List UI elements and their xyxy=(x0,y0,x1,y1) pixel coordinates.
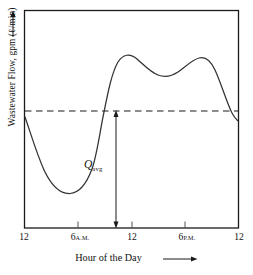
xtick-label-0-text: 12 xyxy=(19,231,29,242)
y-axis-title: Wastewater Flow, gpm (ℓ/min) xyxy=(7,0,17,167)
plot-frame xyxy=(25,11,239,229)
xtick-label-6pm: 6P.M. xyxy=(179,231,196,242)
qavg-subscript: avg xyxy=(92,165,102,172)
x-axis-title: Hour of the Day xyxy=(75,252,141,263)
xtick-label-6am: 6A.M. xyxy=(71,231,89,242)
xtick-label-24: 12 xyxy=(234,231,244,242)
xtick-label-24-text: 12 xyxy=(234,231,244,242)
xtick-label-0: 12 xyxy=(19,231,29,242)
xtick-label-noon: 12 xyxy=(127,231,137,242)
qavg-annotation-label: Qavg xyxy=(84,158,102,172)
xtick-label-6am-meridiem: A.M. xyxy=(76,235,90,241)
x-axis-title-wrap: Hour of the Day xyxy=(0,252,253,263)
xtick-label-noon-text: 12 xyxy=(127,231,137,242)
xtick-label-6pm-meridiem: P.M. xyxy=(183,235,195,241)
